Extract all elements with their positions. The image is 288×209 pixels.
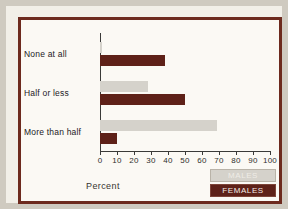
- x-tick: [100, 152, 101, 155]
- chart-plate: 0102030405060708090100 None at allHalf o…: [24, 23, 276, 198]
- x-tick-label: 100: [263, 156, 277, 165]
- photograph-background: 0102030405060708090100 None at allHalf o…: [0, 0, 288, 209]
- bar-chart: 0102030405060708090100 None at allHalf o…: [24, 23, 282, 204]
- x-tick-label: 0: [98, 156, 103, 165]
- bar-males-0: [100, 42, 102, 53]
- category-label: Half or less: [24, 88, 96, 98]
- legend-label-males: MALES: [228, 171, 258, 180]
- x-tick-label: 60: [197, 156, 206, 165]
- chart-frame-border: 0102030405060708090100 None at allHalf o…: [18, 17, 282, 204]
- x-tick-label: 40: [163, 156, 172, 165]
- bar-males-1: [100, 81, 148, 92]
- legend-label-females: FEMALES: [222, 186, 264, 195]
- x-tick: [236, 152, 237, 155]
- x-tick: [270, 152, 271, 155]
- x-tick: [202, 152, 203, 155]
- x-tick: [117, 152, 118, 155]
- x-tick: [253, 152, 254, 155]
- category-label-wrap: Half or less: [24, 88, 96, 98]
- chart-legend: MALES FEMALES: [210, 169, 276, 199]
- bar-males-2: [100, 120, 217, 131]
- x-tick-label: 50: [180, 156, 189, 165]
- print-margin: 0102030405060708090100 None at allHalf o…: [6, 6, 282, 203]
- x-tick: [168, 152, 169, 155]
- x-tick: [185, 152, 186, 155]
- bar-females-2: [100, 133, 117, 144]
- legend-item-males: MALES: [210, 169, 276, 182]
- x-axis-title: Percent: [86, 181, 120, 191]
- x-tick: [134, 152, 135, 155]
- legend-item-females: FEMALES: [210, 184, 276, 197]
- bar-females-0: [100, 55, 165, 66]
- x-tick-label: 10: [112, 156, 121, 165]
- category-label-wrap: None at all: [24, 49, 96, 59]
- x-tick-label: 30: [146, 156, 155, 165]
- x-tick: [219, 152, 220, 155]
- category-label-wrap: More than half: [24, 127, 96, 137]
- x-tick-label: 90: [248, 156, 257, 165]
- category-label: None at all: [24, 49, 96, 59]
- x-tick: [151, 152, 152, 155]
- category-label: More than half: [24, 127, 96, 137]
- x-tick-label: 20: [129, 156, 138, 165]
- bar-females-1: [100, 94, 185, 105]
- x-tick-label: 70: [214, 156, 223, 165]
- x-tick-label: 80: [231, 156, 240, 165]
